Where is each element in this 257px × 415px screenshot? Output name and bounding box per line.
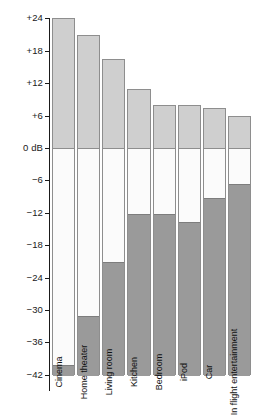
bar-segment-headroom	[53, 19, 74, 149]
y-tick-label: −6	[32, 175, 43, 184]
bar-segment-headroom	[154, 106, 175, 149]
bar-segment-headroom	[229, 117, 250, 149]
bar-segment-headroom	[128, 90, 149, 149]
bar-segment-noise	[154, 214, 175, 376]
y-tick-label: −24	[27, 273, 43, 282]
bar-label: Kitchen	[129, 357, 139, 387]
bar-label-holder: Living room	[103, 360, 124, 374]
y-tick-label: −36	[27, 337, 43, 346]
bar-label-holder: Cinema	[53, 360, 74, 374]
bar-segment-range	[179, 149, 200, 222]
plot-area: CinemaHome theaterLiving roomKitchenBedr…	[50, 0, 257, 409]
bar-segment-range	[154, 149, 175, 214]
bar-label-holder: iPod	[179, 360, 200, 374]
bar-label-holder: Bedroom	[154, 360, 175, 374]
bar-label-holder: Car	[204, 360, 225, 374]
bar-label: Car	[204, 365, 214, 380]
y-tick-label: +12	[27, 78, 43, 87]
bar-label: Bedroom	[154, 354, 164, 391]
bar: iPod	[178, 105, 201, 375]
bar-label: Living room	[104, 349, 114, 396]
bar-label-holder: Home theater	[78, 360, 99, 374]
bar-label: In flight entertainment	[229, 329, 239, 415]
bar-label: Home theater	[79, 345, 89, 400]
y-tick-label: −12	[27, 208, 43, 217]
bar-segment-headroom	[204, 109, 225, 150]
bar-segment-noise	[128, 214, 149, 376]
y-tick-label: 0 dB	[23, 143, 43, 152]
bar-segment-noise	[204, 198, 225, 376]
bar-label: Cinema	[54, 356, 64, 387]
bar-segment-range	[229, 149, 250, 184]
bar-segment-range	[204, 149, 225, 198]
bar: In flight entertainment	[228, 116, 251, 375]
y-tick-label: +18	[27, 46, 43, 55]
y-tick-label: −18	[27, 240, 43, 249]
bar: Kitchen	[127, 89, 150, 375]
y-tick-label: −30	[27, 305, 43, 314]
y-tick-label: +24	[27, 13, 43, 22]
bar-segment-headroom	[179, 106, 200, 149]
bar-segment-range	[53, 149, 74, 365]
y-tick-label: −42	[27, 370, 43, 379]
bar: Living room	[102, 59, 125, 375]
bar: Home theater	[77, 35, 100, 375]
bar: Car	[203, 108, 226, 375]
bar-label-holder: Kitchen	[128, 360, 149, 374]
bar-label-holder: In flight entertainment	[229, 360, 250, 374]
bar-segment-range	[78, 149, 99, 316]
bar-segment-headroom	[78, 36, 99, 149]
bar-label: iPod	[179, 363, 189, 381]
bar: Bedroom	[153, 105, 176, 375]
bar-segment-headroom	[103, 60, 124, 149]
y-tick-label: +6	[32, 111, 43, 120]
bar-segment-range	[103, 149, 124, 262]
bar-segment-range	[128, 149, 149, 214]
bar-segment-noise	[179, 222, 200, 376]
bar: Cinema	[52, 18, 75, 374]
